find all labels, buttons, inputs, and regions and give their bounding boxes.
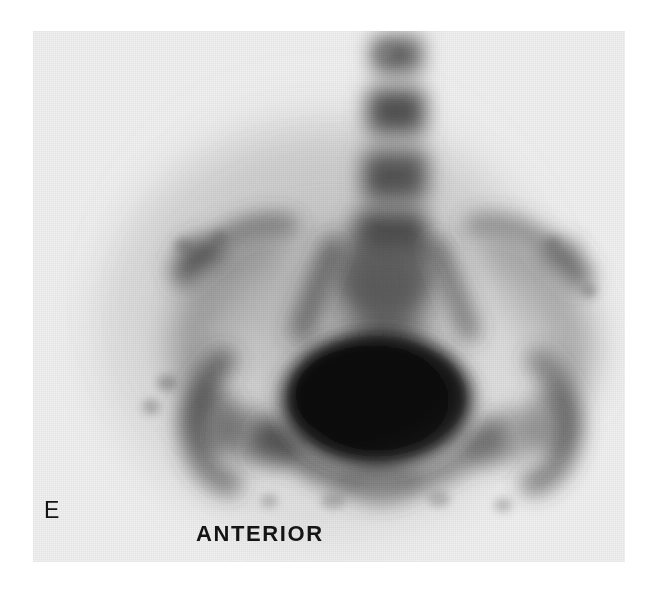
panel-letter-label: E (44, 499, 60, 522)
lumbar-vertebra-second (365, 87, 427, 137)
scintigram-anatomy (33, 31, 625, 562)
view-orientation-label: ANTERIOR (196, 523, 324, 545)
scintigram-image (33, 31, 625, 562)
figure-panel: E ANTERIOR (0, 0, 651, 606)
